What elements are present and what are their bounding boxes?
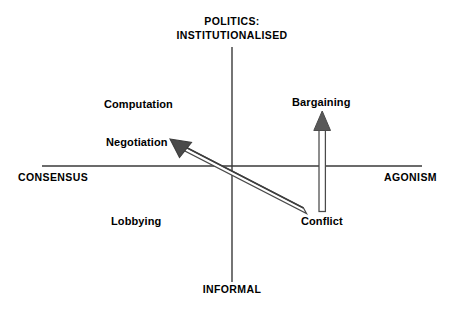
- axis-label-top: POLITICS: INSTITUTIONALISED: [132, 14, 332, 42]
- quadrant-label-computation: Computation: [104, 99, 173, 110]
- vertical-arrow-shaft: [319, 124, 325, 212]
- diagonal-arrow-highlight-edge: [181, 145, 304, 209]
- axis-label-top-line2: INSTITUTIONALISED: [132, 28, 332, 42]
- axis-label-top-line1: POLITICS:: [132, 14, 332, 28]
- diagram-canvas: POLITICS: INSTITUTIONALISED INFORMAL CON…: [0, 0, 451, 312]
- axis-label-left: CONSENSUS: [18, 172, 88, 183]
- axis-label-right: AGONISM: [384, 172, 437, 183]
- quadrant-label-bargaining: Bargaining: [292, 97, 350, 108]
- arrow-conflict-to-bargaining: [314, 111, 331, 212]
- vertical-arrowhead: [314, 111, 331, 131]
- quadrant-label-lobbying: Lobbying: [111, 216, 161, 227]
- quadrant-label-negotiation: Negotiation: [106, 137, 168, 148]
- diagram-graphics: [0, 0, 451, 312]
- arrow-conflict-to-negotiation: [170, 139, 307, 214]
- quadrant-label-conflict: Conflict: [301, 216, 343, 227]
- axis-label-bottom: INFORMAL: [132, 284, 332, 295]
